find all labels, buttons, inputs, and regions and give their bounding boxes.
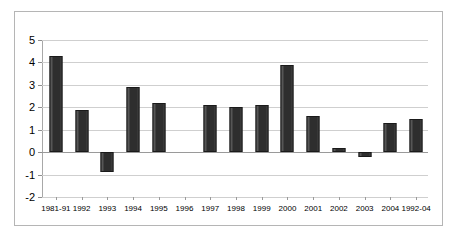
- x-axis-tick: [262, 197, 263, 200]
- y-axis-label: 5: [29, 34, 35, 46]
- x-axis-label: 2001: [304, 204, 322, 213]
- bar-slot[interactable]: 1993: [94, 40, 120, 197]
- bar[interactable]: [255, 105, 268, 152]
- bar[interactable]: [204, 105, 217, 152]
- y-axis-tick-3: [38, 85, 42, 86]
- x-axis-label: 1981-91: [41, 204, 70, 213]
- bar-series: 1981-91199219931994199519961997199819992…: [43, 40, 428, 197]
- y-axis-label: 1: [29, 124, 35, 136]
- x-axis-label: 1997: [201, 204, 219, 213]
- x-axis-label: 1992-04: [401, 204, 430, 213]
- bar-slot[interactable]: 2000: [275, 40, 301, 197]
- y-axis-tick-1: [38, 130, 42, 131]
- y-axis-label: -2: [25, 191, 35, 203]
- x-axis-label: 2004: [381, 204, 399, 213]
- x-axis-label: 2002: [330, 204, 348, 213]
- bar-slot[interactable]: 1992-04: [403, 40, 429, 197]
- x-axis-tick: [365, 197, 366, 200]
- bar-slot[interactable]: 2004: [378, 40, 404, 197]
- x-axis-tick: [210, 197, 211, 200]
- bar-slot[interactable]: 1996: [172, 40, 198, 197]
- x-axis-tick: [236, 197, 237, 200]
- x-axis-label: 1993: [98, 204, 116, 213]
- x-axis-tick: [82, 197, 83, 200]
- bar[interactable]: [307, 116, 320, 152]
- x-axis-tick: [390, 197, 391, 200]
- x-axis-label: 1998: [227, 204, 245, 213]
- chart-frame: 543210-1-2 1981-911992199319941995199619…: [14, 11, 443, 226]
- bar-slot[interactable]: 1997: [197, 40, 223, 197]
- y-axis-label: -1: [25, 169, 35, 181]
- x-axis-label: 1994: [124, 204, 142, 213]
- bar[interactable]: [281, 65, 294, 152]
- y-axis-tick-0: [38, 152, 42, 153]
- bar-slot[interactable]: 2001: [300, 40, 326, 197]
- bar-slot[interactable]: 1995: [146, 40, 172, 197]
- y-axis-label: 2: [29, 101, 35, 113]
- bar[interactable]: [229, 107, 242, 152]
- bar-slot[interactable]: 1999: [249, 40, 275, 197]
- x-axis-tick: [133, 197, 134, 200]
- plot-area: 543210-1-2 1981-911992199319941995199619…: [42, 40, 428, 197]
- y-axis-tick--1: [38, 175, 42, 176]
- bar-slot[interactable]: 1998: [223, 40, 249, 197]
- y-axis-label: 3: [29, 79, 35, 91]
- bar-slot[interactable]: 1994: [120, 40, 146, 197]
- bar[interactable]: [384, 123, 397, 152]
- x-axis-tick: [107, 197, 108, 200]
- bar-slot[interactable]: 2002: [326, 40, 352, 197]
- x-axis-label: 2000: [279, 204, 297, 213]
- x-axis-label: 2003: [356, 204, 374, 213]
- bar-slot[interactable]: 1981-91: [43, 40, 69, 197]
- bar[interactable]: [127, 87, 140, 152]
- x-axis-tick: [339, 197, 340, 200]
- x-axis-tick: [287, 197, 288, 200]
- x-axis-tick: [159, 197, 160, 200]
- x-axis-label: 1995: [150, 204, 168, 213]
- x-axis-tick: [56, 197, 57, 200]
- y-axis-tick-4: [38, 62, 42, 63]
- y-axis-tick-5: [38, 40, 42, 41]
- y-axis-label: 0: [29, 146, 35, 158]
- bar[interactable]: [101, 152, 114, 172]
- y-axis-label: 4: [29, 56, 35, 68]
- x-axis-label: 1999: [253, 204, 271, 213]
- x-axis-tick: [416, 197, 417, 200]
- y-axis-tick-2: [38, 107, 42, 108]
- x-axis-label: 1992: [73, 204, 91, 213]
- bar[interactable]: [75, 110, 88, 153]
- bar[interactable]: [332, 148, 345, 152]
- bar[interactable]: [49, 56, 62, 152]
- x-axis-label: 1996: [176, 204, 194, 213]
- y-axis-tick--2: [38, 197, 42, 198]
- x-axis-tick: [185, 197, 186, 200]
- bar[interactable]: [358, 152, 371, 156]
- x-axis-tick: [313, 197, 314, 200]
- bar-slot[interactable]: 2003: [352, 40, 378, 197]
- bar[interactable]: [410, 119, 423, 153]
- bar[interactable]: [152, 103, 165, 152]
- bar-slot[interactable]: 1992: [69, 40, 95, 197]
